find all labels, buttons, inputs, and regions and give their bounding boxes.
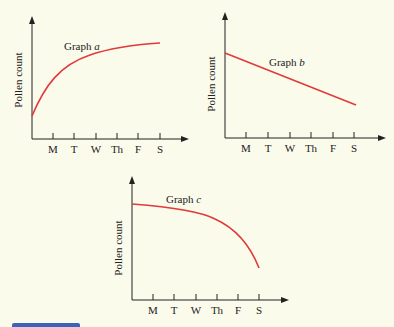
tick-label: F (135, 143, 141, 155)
tick-label: T (171, 304, 178, 316)
y-axis-label: Pollen count (112, 220, 124, 275)
tick-label: S (351, 142, 357, 154)
tick-label: S (157, 143, 163, 155)
tick-label: Th (111, 143, 124, 155)
tick-label: S (256, 304, 262, 316)
tick-label: W (91, 143, 102, 155)
graph-c: M T W Th F S Pollen count Graph c (112, 180, 285, 316)
graph-a: M T W Th F S Pollen count Graph a (12, 20, 185, 155)
section-tab (12, 323, 80, 327)
tick-label: W (191, 304, 202, 316)
tick-label: M (241, 142, 251, 154)
tick-label: Th (211, 304, 224, 316)
y-axis-label: Pollen count (12, 52, 24, 107)
tick-label: Th (305, 142, 318, 154)
graph-title: Graph a (64, 40, 100, 52)
tick-label: F (235, 304, 241, 316)
data-line (32, 43, 160, 116)
tick-label: F (330, 142, 336, 154)
tick-label: T (71, 143, 78, 155)
tick-label: W (285, 142, 296, 154)
graph-title: Graph b (269, 56, 305, 68)
tick-label: M (48, 143, 58, 155)
y-axis-label: Pollen count (205, 56, 217, 111)
tick-label: T (265, 142, 272, 154)
graph-b: M T W Th F S Pollen count Graph b (205, 16, 382, 154)
tick-label: M (148, 304, 158, 316)
graph-title: Graph c (166, 193, 201, 205)
data-line (132, 204, 259, 268)
